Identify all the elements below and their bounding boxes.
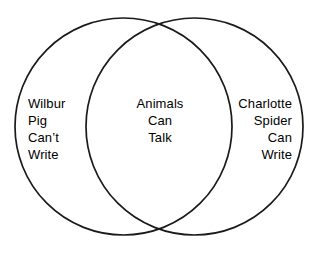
intersection-label: Animals Can Talk bbox=[128, 95, 192, 146]
venn-diagram-canvas: Wilbur Pig Can’t Write Animals Can Talk … bbox=[0, 0, 317, 253]
left-set-label: Wilbur Pig Can’t Write bbox=[28, 95, 65, 163]
intersection-line-1: Animals bbox=[128, 95, 192, 112]
intersection-line-2: Can bbox=[128, 112, 192, 129]
left-set-line-4: Write bbox=[28, 146, 65, 163]
right-set-label: Charlotte Spider Can Write bbox=[232, 95, 292, 163]
right-set-line-4: Write bbox=[232, 146, 292, 163]
right-set-line-1: Charlotte bbox=[232, 95, 292, 112]
right-set-line-2: Spider bbox=[232, 112, 292, 129]
left-set-line-3: Can’t bbox=[28, 129, 65, 146]
left-set-line-2: Pig bbox=[28, 112, 65, 129]
intersection-line-3: Talk bbox=[128, 129, 192, 146]
left-set-line-1: Wilbur bbox=[28, 95, 65, 112]
right-set-line-3: Can bbox=[232, 129, 292, 146]
